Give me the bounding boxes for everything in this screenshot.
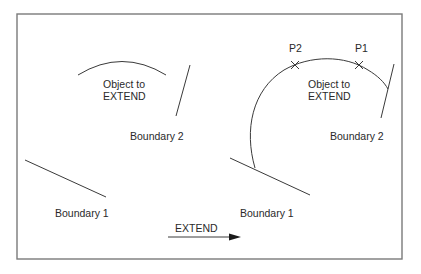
boundary2-line-before bbox=[176, 65, 190, 116]
object-label-after-2: EXTEND bbox=[308, 90, 351, 102]
object-label-before-2: EXTEND bbox=[103, 90, 146, 102]
boundary2-label-after: Boundary 2 bbox=[330, 130, 384, 142]
boundary1-label-after: Boundary 1 bbox=[240, 207, 294, 219]
p1-label: P1 bbox=[355, 42, 368, 54]
after-panel: P2 P1 Object to EXTEND Boundary 2 Bounda… bbox=[230, 42, 394, 219]
p2-label: P2 bbox=[289, 42, 302, 54]
boundary1-line-after bbox=[230, 158, 310, 195]
extend-arrow: EXTEND bbox=[168, 222, 241, 241]
before-panel: Object to EXTEND Boundary 2 Boundary 1 bbox=[25, 62, 190, 220]
p1-cross-icon bbox=[355, 61, 363, 69]
object-label-before-1: Object to bbox=[103, 78, 145, 90]
object-label-after-1: Object to bbox=[308, 78, 350, 90]
p2-cross-icon bbox=[291, 61, 299, 69]
object-arc-after bbox=[250, 59, 388, 168]
extend-diagram: Object to EXTEND Boundary 2 Boundary 1 E… bbox=[0, 0, 421, 274]
extend-arrow-label: EXTEND bbox=[175, 222, 218, 234]
arrow-head-icon bbox=[229, 234, 241, 241]
boundary1-line-before bbox=[25, 160, 106, 197]
boundary2-line-after bbox=[381, 64, 394, 118]
boundary1-label-before: Boundary 1 bbox=[55, 207, 109, 219]
boundary2-label-before: Boundary 2 bbox=[130, 130, 184, 142]
object-arc-before bbox=[78, 62, 166, 76]
